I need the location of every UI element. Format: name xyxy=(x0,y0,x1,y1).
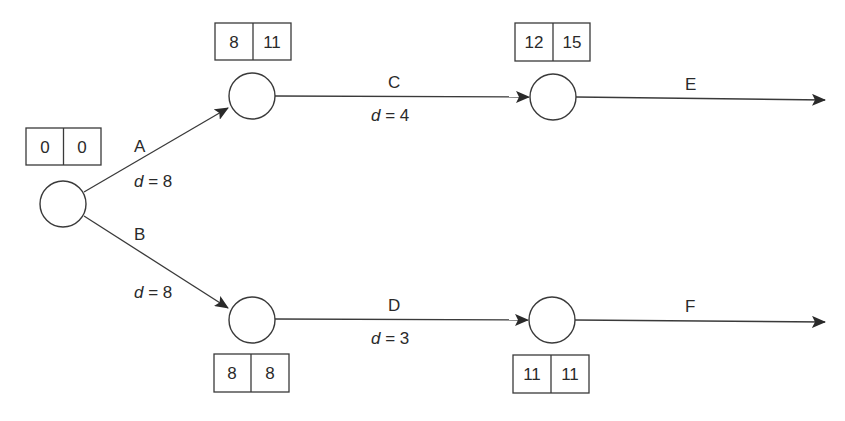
latest-time: 0 xyxy=(77,138,86,157)
latest-time: 15 xyxy=(563,33,582,52)
network-diagram: 0 0 8 11 8 8 12 15 11 11 A d = 8 B d = 8… xyxy=(0,0,845,421)
event-node-3 xyxy=(229,297,275,343)
earliest-time: 8 xyxy=(227,364,236,383)
event-node-2 xyxy=(229,73,275,119)
activity-b-label: B xyxy=(134,225,145,244)
event-node-4 xyxy=(530,74,576,120)
activity-d-label: D xyxy=(388,296,400,315)
activity-b-duration: d = 8 xyxy=(134,283,172,302)
earliest-time: 11 xyxy=(523,365,541,384)
earliest-time: 0 xyxy=(40,138,49,157)
latest-time: 11 xyxy=(561,365,579,384)
event-node-1 xyxy=(40,181,86,227)
earliest-time: 8 xyxy=(229,33,238,52)
time-box-node-1: 0 0 xyxy=(26,128,101,165)
activity-f-label: F xyxy=(685,297,695,316)
time-box-node-3: 8 8 xyxy=(214,354,289,392)
activity-c-label: C xyxy=(388,73,400,92)
activity-d-arrow xyxy=(275,319,528,320)
activity-d-duration: d = 3 xyxy=(371,329,409,348)
time-box-node-4: 12 15 xyxy=(515,23,590,61)
activity-a-duration: d = 8 xyxy=(134,172,172,191)
activity-e-label: E xyxy=(685,75,696,94)
activity-e-arrow xyxy=(576,97,825,100)
event-node-5 xyxy=(529,297,575,343)
activity-f-arrow xyxy=(575,320,825,322)
activity-c-arrow xyxy=(275,96,529,97)
latest-time: 8 xyxy=(265,364,274,383)
activity-c-duration: d = 4 xyxy=(371,106,409,125)
latest-time: 11 xyxy=(263,33,281,52)
earliest-time: 12 xyxy=(525,33,544,52)
time-box-node-5: 11 11 xyxy=(513,355,589,393)
time-box-node-2: 8 11 xyxy=(215,23,291,60)
activity-a-label: A xyxy=(134,137,146,156)
